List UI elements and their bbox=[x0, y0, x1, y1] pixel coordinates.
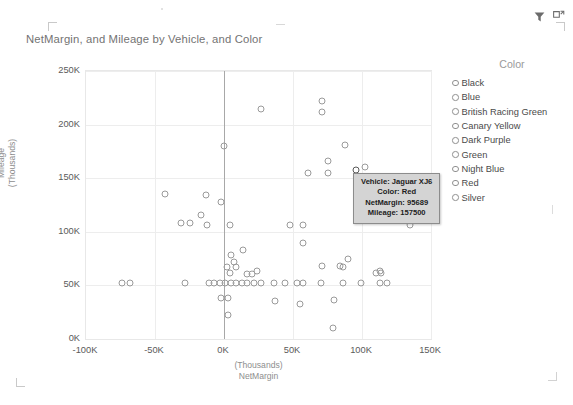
y-axis-title-line2: (Thousands) bbox=[7, 128, 18, 198]
scatter-point[interactable] bbox=[318, 98, 325, 105]
scatter-point[interactable] bbox=[197, 211, 204, 218]
legend-item-black[interactable]: Black bbox=[452, 76, 572, 90]
y-axis-tick-label: 150K bbox=[58, 172, 80, 182]
tooltip-line-mileage: Mileage: 157500 bbox=[361, 208, 432, 218]
legend-marker-circle-icon bbox=[452, 137, 459, 144]
scatter-point[interactable] bbox=[287, 222, 294, 229]
legend-marker-circle-icon bbox=[452, 166, 459, 173]
legend-item-green[interactable]: Green bbox=[452, 147, 572, 161]
scatter-point[interactable] bbox=[221, 143, 228, 150]
legend-item-silver[interactable]: Silver bbox=[452, 190, 572, 204]
scatter-point[interactable] bbox=[318, 108, 325, 115]
legend-item-night-blue[interactable]: Night Blue bbox=[452, 162, 572, 176]
scatter-point[interactable] bbox=[270, 280, 277, 287]
scatter-point[interactable] bbox=[318, 263, 325, 270]
x-axis-tick-label: 0K bbox=[217, 345, 228, 355]
corner-mark-top-right bbox=[556, 22, 565, 31]
legend-item-label: Black bbox=[462, 78, 485, 88]
y-axis-title-line1: Mileage bbox=[0, 128, 7, 198]
scatter-point[interactable] bbox=[226, 222, 233, 229]
legend-item-dark-purple[interactable]: Dark Purple bbox=[452, 133, 572, 147]
gridline-horizontal bbox=[86, 232, 431, 233]
x-axis-title: (Thousands) NetMargin bbox=[85, 360, 432, 382]
scatter-point[interactable] bbox=[299, 280, 306, 287]
scatter-point[interactable] bbox=[383, 280, 390, 287]
scatter-point[interactable] bbox=[225, 312, 232, 319]
focus-mode-icon[interactable] bbox=[552, 10, 565, 23]
scatter-point[interactable] bbox=[317, 280, 324, 287]
x-axis-tick-label: 150K bbox=[419, 345, 441, 355]
scatter-point[interactable] bbox=[339, 264, 346, 271]
scatter-point[interactable] bbox=[127, 280, 134, 287]
corner-mark-top-left bbox=[48, 22, 57, 31]
scatter-point[interactable] bbox=[186, 220, 193, 227]
scatter-point[interactable] bbox=[226, 269, 233, 276]
scatter-point[interactable] bbox=[272, 298, 279, 305]
legend-item-blue[interactable]: Blue bbox=[452, 90, 572, 104]
scatter-point[interactable] bbox=[254, 268, 261, 275]
legend-item-red[interactable]: Red bbox=[452, 176, 572, 190]
gridline-vertical bbox=[293, 71, 294, 339]
scatter-point[interactable] bbox=[378, 269, 385, 276]
edge-mark-top-center bbox=[276, 24, 285, 25]
scatter-point[interactable] bbox=[331, 297, 338, 304]
scatter-point[interactable] bbox=[178, 220, 185, 227]
scatter-point[interactable] bbox=[281, 280, 288, 287]
y-axis-tick-labels: 0K50K100K150K200K250K bbox=[42, 70, 80, 340]
legend-item-label: Red bbox=[462, 178, 479, 188]
data-point-tooltip: Vehicle: Jaguar XJ6 Color: Red NetMargin… bbox=[353, 173, 440, 224]
legend-marker-circle-icon bbox=[452, 123, 459, 130]
scatter-point[interactable] bbox=[233, 264, 240, 271]
scatter-point[interactable] bbox=[204, 222, 211, 229]
x-axis-tick-label: -50K bbox=[144, 345, 164, 355]
scatter-point[interactable] bbox=[296, 300, 303, 307]
scatter-point[interactable] bbox=[299, 222, 306, 229]
legend-item-label: Night Blue bbox=[462, 164, 505, 174]
color-legend: Color BlackBlueBritish Racing GreenCanar… bbox=[452, 58, 572, 205]
scatter-point[interactable] bbox=[324, 169, 331, 176]
scatter-point[interactable] bbox=[357, 280, 364, 287]
legend-item-label: Green bbox=[462, 150, 488, 160]
legend-marker-circle-icon bbox=[452, 180, 459, 187]
scatter-point[interactable] bbox=[345, 255, 352, 262]
tooltip-line-netmargin: NetMargin: 95689 bbox=[361, 198, 432, 208]
scatter-point[interactable] bbox=[361, 164, 368, 171]
legend-item-british-racing-green[interactable]: British Racing Green bbox=[452, 105, 572, 119]
legend-item-canary-yellow[interactable]: Canary Yellow bbox=[452, 119, 572, 133]
x-axis-tick-label: -100K bbox=[73, 345, 98, 355]
x-axis-title-line2: NetMargin bbox=[85, 371, 432, 382]
corner-mark-bottom-left bbox=[16, 378, 25, 387]
scatter-point[interactable] bbox=[218, 198, 225, 205]
scatter-point[interactable] bbox=[161, 191, 168, 198]
scatter-point[interactable] bbox=[330, 325, 337, 332]
corner-mark-bottom-right bbox=[548, 372, 557, 381]
scatter-point[interactable] bbox=[225, 295, 232, 302]
filter-icon[interactable] bbox=[533, 10, 546, 23]
scatter-point[interactable] bbox=[305, 169, 312, 176]
legend-item-label: Dark Purple bbox=[462, 135, 511, 145]
scatter-point[interactable] bbox=[299, 239, 306, 246]
scatter-point[interactable] bbox=[342, 141, 349, 148]
scatter-point[interactable] bbox=[324, 158, 331, 165]
y-axis-tick-label: 50K bbox=[63, 279, 80, 289]
legend-marker-circle-icon bbox=[452, 108, 459, 115]
gridline-horizontal bbox=[86, 71, 431, 72]
gridline-vertical bbox=[155, 71, 156, 339]
scatter-point[interactable] bbox=[182, 280, 189, 287]
scatter-point[interactable] bbox=[258, 280, 265, 287]
scatter-point[interactable] bbox=[339, 280, 346, 287]
y-axis-tick-label: 100K bbox=[58, 226, 80, 236]
legend-marker-circle-icon bbox=[452, 80, 459, 87]
tooltip-line-color: Color: Red bbox=[361, 187, 432, 197]
y-axis-tick-label: 0K bbox=[69, 333, 80, 343]
scatter-point[interactable] bbox=[240, 247, 247, 254]
scatter-point[interactable] bbox=[258, 105, 265, 112]
legend-marker-circle-icon bbox=[452, 194, 459, 201]
legend-item-label: Silver bbox=[462, 193, 485, 203]
legend-item-label: Canary Yellow bbox=[462, 121, 521, 131]
scatter-point[interactable] bbox=[118, 280, 125, 287]
x-axis-title-line1: (Thousands) bbox=[85, 360, 432, 371]
tooltip-line-vehicle: Vehicle: Jaguar XJ6 bbox=[361, 177, 432, 187]
scatter-point[interactable] bbox=[203, 192, 210, 199]
page-title: NetMargin, and Mileage by Vehicle, and C… bbox=[26, 33, 262, 45]
